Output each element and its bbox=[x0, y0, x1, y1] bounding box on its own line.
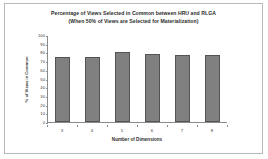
x-axis-tick-mark bbox=[137, 125, 138, 127]
x-axis-tick-label: 3 bbox=[47, 125, 77, 134]
x-axis-tick-mark bbox=[197, 125, 198, 127]
bar-slot bbox=[137, 36, 167, 122]
y-axis-tick-label: 100 bbox=[38, 33, 45, 38]
x-axis-tick-label: 7 bbox=[167, 125, 197, 134]
y-axis-tick-label: 10 bbox=[40, 111, 45, 116]
bar-slot bbox=[167, 36, 197, 122]
y-axis-tick-mark bbox=[46, 123, 48, 124]
y-axis-tick-label: 70 bbox=[40, 59, 45, 64]
x-axis-tick-mark bbox=[227, 125, 228, 127]
x-axis-tick-label: 8 bbox=[197, 125, 227, 134]
bar bbox=[175, 55, 190, 122]
x-axis-tick-label: 5 bbox=[107, 125, 137, 134]
bar bbox=[85, 57, 100, 122]
bar bbox=[115, 52, 130, 122]
y-axis-title: % of Views in Common bbox=[22, 36, 32, 123]
y-axis-tick-label: 40 bbox=[40, 85, 45, 90]
x-axis-tick-label: 6 bbox=[137, 125, 167, 134]
chart-title-line2: (When 50% of Views are Selected for Mate… bbox=[5, 17, 262, 25]
bar-slot bbox=[197, 36, 227, 122]
y-axis-tick-label: 60 bbox=[40, 68, 45, 73]
bar bbox=[55, 57, 70, 122]
x-axis-tick-mark bbox=[107, 125, 108, 127]
x-axis-tick-mark bbox=[167, 125, 168, 127]
bar bbox=[205, 55, 220, 122]
x-axis-tick-mark bbox=[77, 125, 78, 127]
y-axis-tick-label: 0 bbox=[43, 120, 45, 125]
y-axis-tick-label: 30 bbox=[40, 94, 45, 99]
y-axis-tick-label: 80 bbox=[40, 50, 45, 55]
bar bbox=[145, 54, 160, 122]
bar-slot bbox=[108, 36, 138, 122]
y-axis-tick-label: 90 bbox=[40, 42, 45, 47]
y-axis-tick-label: 20 bbox=[40, 103, 45, 108]
chart-title: Percentage of Views Selected in Common b… bbox=[5, 9, 262, 25]
x-axis-title: Number of Dimensions bbox=[47, 137, 227, 142]
x-axis-tick-label: 4 bbox=[77, 125, 107, 134]
plot-area: 1009080706050403020100 bbox=[47, 36, 227, 123]
bar-slot bbox=[48, 36, 78, 122]
bar-series bbox=[48, 36, 227, 122]
bar-slot bbox=[78, 36, 108, 122]
chart-title-line1: Percentage of Views Selected in Common b… bbox=[51, 10, 216, 16]
x-axis-tick-mark bbox=[47, 125, 48, 127]
chart-frame: Percentage of Views Selected in Common b… bbox=[4, 3, 263, 154]
x-axis-tick-labels: 345678 bbox=[47, 125, 227, 134]
y-axis-tick-label: 50 bbox=[40, 77, 45, 82]
